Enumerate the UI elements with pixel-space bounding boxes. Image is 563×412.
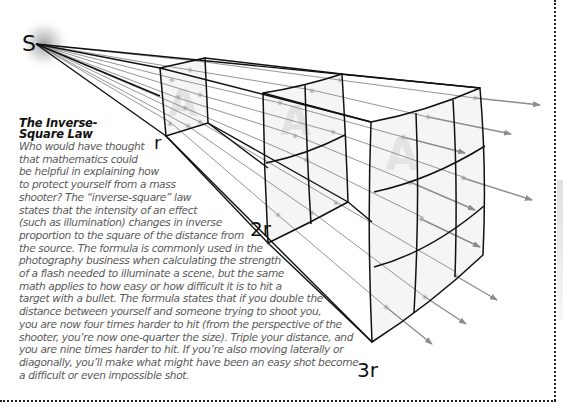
dotted-border-bottom <box>0 400 556 402</box>
frame-3r-label: 3r <box>357 360 378 380</box>
caption-body: Who would have thought that mathematics … <box>19 140 349 381</box>
caption-line: states that the intensity of an effect <box>19 204 349 217</box>
caption-line: of a flash needed to illuminate a scene,… <box>19 267 349 280</box>
caption-line: be helpful in explaining how <box>19 165 349 178</box>
dotted-border-right <box>554 0 556 401</box>
caption-line: (such as illumination) changes in invers… <box>19 216 349 229</box>
source-label: S <box>22 33 36 55</box>
caption-line: you are nine times harder to hit. If you… <box>19 343 349 356</box>
caption-line: photography business when calculating th… <box>19 254 349 267</box>
caption-line: shooter, you’re now one-quarter the size… <box>19 331 349 344</box>
caption-line: distance between yourself and someone tr… <box>19 305 349 318</box>
caption-line: math applies to how easy or how difficul… <box>19 280 349 293</box>
caption-line: that mathematics could <box>19 153 349 166</box>
caption-title-line2: Square Law <box>19 129 349 140</box>
caption-line: you are now four times harder to hit (fr… <box>19 318 349 331</box>
caption-line: a difficult or even impossible shot. <box>19 369 349 382</box>
caption-line: target with a bullet. The formula states… <box>19 292 349 305</box>
caption-line: to protect yourself from a mass <box>19 178 349 191</box>
caption-line: shooter? The “inverse-square” law <box>19 191 349 204</box>
caption-line: proportion to the square of the distance… <box>19 229 349 242</box>
page-edge-shadow <box>557 180 563 320</box>
caption-block: The Inverse- Square Law Who would have t… <box>19 118 349 381</box>
caption-line: Who would have thought <box>19 140 349 153</box>
caption-line: the source. The formula is commonly used… <box>19 242 349 255</box>
caption-line: diagonally, you’ll make what might have … <box>19 356 349 369</box>
